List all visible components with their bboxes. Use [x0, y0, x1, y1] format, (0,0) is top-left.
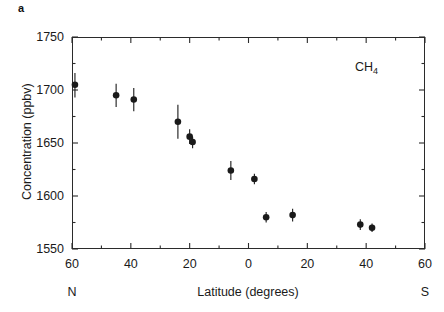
- x-tick-label: 40: [346, 258, 386, 271]
- x-tick-label: 60: [405, 258, 444, 271]
- x-axis-hemisphere-south: S: [413, 285, 437, 299]
- figure-container: a Concentration (ppbv) Latitude (degrees…: [0, 0, 444, 312]
- y-tick-label: 1550: [22, 243, 64, 256]
- x-axis-hemisphere-north: N: [60, 285, 84, 299]
- y-tick-label: 1750: [22, 31, 64, 44]
- x-tick-label: 60: [52, 258, 92, 271]
- species-annotation: CH4: [355, 60, 378, 74]
- y-tick-label: 1650: [22, 137, 64, 150]
- x-tick-label: 20: [170, 258, 210, 271]
- panel-label: a: [18, 2, 24, 14]
- y-tick-label: 1700: [22, 84, 64, 97]
- x-tick-label: 0: [229, 258, 269, 271]
- x-tick-label: 20: [287, 258, 327, 271]
- x-tick-label: 40: [111, 258, 151, 271]
- x-axis-title: Latitude (degrees): [148, 285, 348, 299]
- species-annotation-subscript: 4: [373, 66, 378, 76]
- y-tick-label: 1600: [22, 190, 64, 203]
- species-annotation-text: CH: [355, 60, 373, 74]
